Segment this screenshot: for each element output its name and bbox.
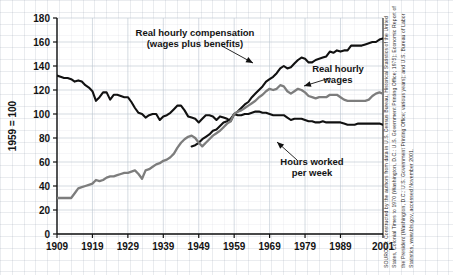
x-tick-label: 1929 — [117, 241, 140, 252]
x-tick-label: 1979 — [294, 241, 317, 252]
x-tick-label: 1959 — [223, 241, 246, 252]
y-tick-label: 180 — [33, 13, 50, 24]
x-tick-label: 1949 — [188, 241, 211, 252]
y-tick-label: 0 — [44, 229, 50, 240]
annotation-line-2: (wages plus benefits) — [147, 38, 244, 49]
annotation-line-1: Hours worked — [280, 156, 344, 167]
annotation-line-1: Real hourly compensation — [136, 27, 255, 38]
y-axis-title: 1959 = 100 — [7, 100, 18, 151]
x-tick-label: 1939 — [152, 241, 175, 252]
x-tick-label: 1969 — [258, 241, 281, 252]
x-tick-label: 1989 — [329, 241, 352, 252]
annotation-line-1: Real hourly — [312, 63, 364, 74]
annotation-line-2: wages — [322, 74, 352, 85]
y-axis-tick-labels: 020406080100120140160180 — [33, 13, 50, 240]
y-tick-label: 40 — [39, 181, 51, 192]
source-note: SOURCES: Constructed by the authors from… — [382, 4, 450, 268]
y-tick-label: 160 — [33, 37, 50, 48]
y-tick-label: 120 — [33, 85, 50, 96]
y-tick-label: 20 — [39, 205, 51, 216]
y-tick-label: 60 — [39, 157, 51, 168]
x-tick-label: 1919 — [81, 241, 104, 252]
y-tick-label: 100 — [33, 109, 50, 120]
y-tick-label: 140 — [33, 61, 50, 72]
annotation-line-2: per week — [292, 167, 333, 178]
y-tick-label: 80 — [39, 133, 51, 144]
x-axis-tick-labels: 1909191919291939194919591969197919892001 — [46, 241, 395, 252]
x-tick-label: 1909 — [46, 241, 69, 252]
